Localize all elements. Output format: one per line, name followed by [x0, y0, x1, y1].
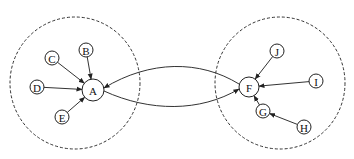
edge-D-A: [44, 87, 82, 89]
graph-diagram: ABCDEFJIGH: [0, 0, 354, 159]
edge-A-F: [104, 89, 239, 107]
edge-I-F: [259, 82, 309, 86]
node-label: I: [314, 76, 318, 88]
diagram-canvas: ABCDEFJIGH: [0, 0, 354, 159]
node-E: E: [55, 110, 69, 124]
node-label: C: [48, 53, 55, 65]
node-label: D: [33, 82, 41, 94]
edge-J-F: [255, 57, 273, 80]
node-label: J: [275, 46, 280, 58]
edge-C-A: [58, 62, 85, 83]
node-H: H: [297, 120, 311, 134]
node-B: B: [79, 43, 93, 57]
edge-F-A: [104, 66, 239, 88]
node-label: A: [89, 85, 97, 97]
node-label: F: [246, 82, 252, 94]
edge-E-A: [67, 97, 84, 112]
cluster-left: [10, 17, 140, 149]
node-label: H: [300, 122, 308, 134]
cluster-right: [215, 17, 345, 149]
node-label: B: [82, 45, 89, 57]
node-G: G: [256, 104, 270, 118]
edge-B-A: [87, 57, 91, 79]
node-I: I: [309, 74, 323, 88]
node-J: J: [270, 44, 284, 58]
node-A: A: [82, 79, 104, 101]
node-label: E: [59, 112, 66, 124]
node-C: C: [45, 51, 59, 65]
node-label: G: [259, 106, 267, 118]
edge-G-F: [254, 96, 259, 105]
edge-H-G: [270, 114, 298, 125]
node-D: D: [30, 80, 44, 94]
node-F: F: [239, 77, 259, 97]
